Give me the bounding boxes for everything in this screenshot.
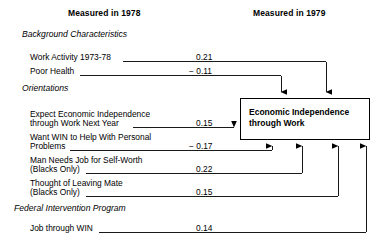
connector-job-through-win	[99, 146, 366, 232]
outcome-node-label: Economic Independence through Work	[249, 107, 367, 128]
path-diagram-figure: Measured in 1978 Measured in 1979 Backgr…	[0, 0, 384, 251]
outcome-label-line1: Economic Independence	[249, 107, 349, 117]
connector-poor-health	[80, 76, 281, 93]
connector-want-win	[70, 146, 272, 150]
connector-leaving-mate	[86, 146, 338, 196]
outcome-label-line2: through Work	[249, 118, 305, 128]
outcome-node-box: Economic Independence through Work	[240, 98, 370, 140]
connector-work-activity	[123, 62, 326, 93]
